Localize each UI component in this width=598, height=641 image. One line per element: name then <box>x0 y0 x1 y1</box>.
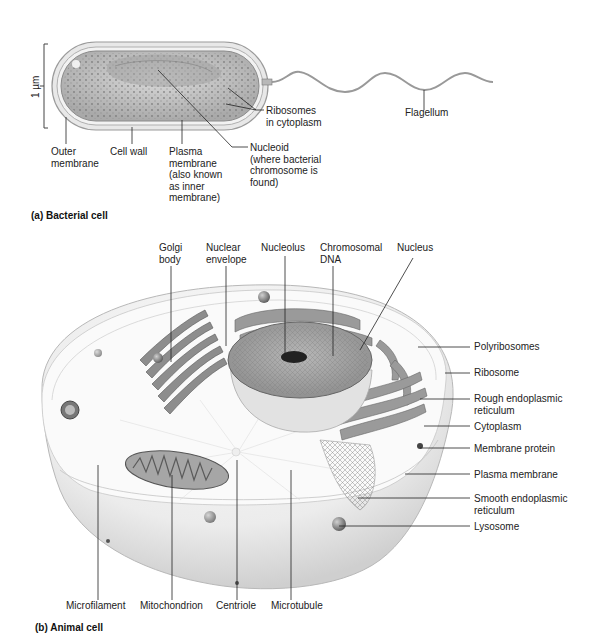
label-nucleus: Nucleus <box>397 242 433 254</box>
label-mitochondrion: Mitochondrion <box>140 600 203 612</box>
caption-animal-cell: (b) Animal cell <box>35 622 103 633</box>
label-membrane-protein: Membrane protein <box>474 443 555 455</box>
label-plasma-membrane-animal: Plasma membrane <box>474 469 558 481</box>
cell-diagram: 1 µm Outer membrane Cell wall Plasma mem… <box>0 0 598 641</box>
label-plasma-membrane-bacterial: Plasma membrane (also known as inner mem… <box>169 146 222 204</box>
label-nucleolus: Nucleolus <box>261 242 305 254</box>
label-outer-membrane: Outer membrane <box>51 146 99 169</box>
label-ribosomes-in-cytoplasm: Ribosomes in cytoplasm <box>266 105 322 128</box>
label-chromosomal-dna: Chromosomal DNA <box>320 242 382 265</box>
diagram-artwork <box>0 0 598 641</box>
label-rough-er: Rough endoplasmic reticulum <box>474 393 562 416</box>
label-cell-wall: Cell wall <box>110 146 147 158</box>
label-cytoplasm: Cytoplasm <box>474 421 521 433</box>
label-microfilament: Microfilament <box>66 600 125 612</box>
label-golgi-body: Golgi body <box>159 242 182 265</box>
label-flagellum: Flagellum <box>405 107 448 119</box>
bacterial-cell-art <box>40 42 493 147</box>
label-nucleoid: Nucleoid (where bacterial chromosome is … <box>250 142 321 188</box>
label-centriole: Centriole <box>216 600 256 612</box>
label-microtubule: Microtubule <box>271 600 323 612</box>
scale-label: 1 µm <box>30 76 41 98</box>
label-smooth-er: Smooth endoplasmic reticulum <box>474 493 567 516</box>
label-lysosome: Lysosome <box>474 521 519 533</box>
label-polyribosomes: Polyribosomes <box>474 341 540 353</box>
label-ribosome: Ribosome <box>474 367 519 379</box>
caption-bacterial-cell: (a) Bacterial cell <box>31 210 108 221</box>
animal-cell-art <box>42 256 470 600</box>
label-nuclear-envelope: Nuclear envelope <box>206 242 247 265</box>
